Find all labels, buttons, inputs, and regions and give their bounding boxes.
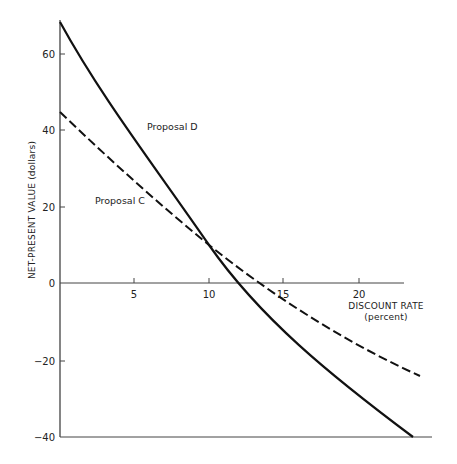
x-ticks [134, 278, 359, 283]
series-label-proposal-d: Proposal D [147, 121, 198, 132]
y-tick-60: 60 [42, 49, 55, 60]
y-tick-minus-20: −20 [34, 356, 55, 367]
series-label-proposal-c: Proposal C [95, 195, 145, 206]
y-tick-0: 0 [49, 278, 55, 289]
y-tick-labels: 60 40 20 0 −20 −40 [34, 49, 55, 443]
y-tick-40: 40 [42, 125, 55, 136]
y-tick-20: 20 [42, 202, 55, 213]
series-proposal-d-line [60, 22, 413, 437]
npv-chart: 60 40 20 0 −20 −40 5 10 15 20 DISCOUNT R… [0, 0, 457, 464]
series-proposal-c-line [60, 112, 420, 376]
x-axis-title-line2: (percent) [364, 312, 407, 322]
x-axis-title-line1: DISCOUNT RATE [348, 301, 424, 311]
y-tick-minus-40: −40 [34, 432, 55, 443]
x-tick-5: 5 [131, 289, 137, 300]
y-ticks [60, 54, 65, 361]
y-axis-title: NET-PRESENT VALUE (dollars) [27, 141, 37, 279]
x-tick-20: 20 [353, 289, 366, 300]
x-tick-10: 10 [203, 289, 216, 300]
